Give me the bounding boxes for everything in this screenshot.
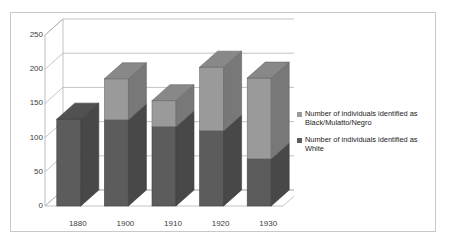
chart-legend: Number of individuals identified as Blac… bbox=[297, 109, 437, 161]
chart-screenshot: 250200150100500 18801900191019201930 Num… bbox=[0, 0, 449, 250]
chart-frame: 250200150100500 18801900191019201930 Num… bbox=[10, 12, 436, 232]
legend-label: Number of individuals identified as Whit… bbox=[305, 135, 437, 154]
bar-group-1910 bbox=[152, 85, 194, 206]
x-tick-label-1900: 1900 bbox=[105, 220, 145, 228]
y-tick-label: 200 bbox=[30, 65, 43, 73]
legend-label: Number of individuals identified as Blac… bbox=[305, 109, 437, 128]
plot-svg bbox=[11, 13, 294, 233]
y-axis-labels: 250200150100500 bbox=[11, 13, 43, 233]
x-tick-label-1920: 1920 bbox=[201, 220, 241, 228]
y-axis-top-depth bbox=[45, 19, 63, 35]
y-tick-label: 100 bbox=[30, 134, 43, 142]
y-tick-label: 250 bbox=[30, 31, 43, 39]
x-tick-label-1930: 1930 bbox=[248, 220, 288, 228]
legend-item[interactable]: Number of individuals identified as Whit… bbox=[297, 135, 437, 154]
bar-group-1900 bbox=[104, 63, 146, 206]
legend-swatch-icon bbox=[297, 112, 302, 117]
x-axis-labels: 18801900191019201930 bbox=[11, 203, 294, 227]
plot-area bbox=[11, 13, 294, 233]
y-tick-label: 50 bbox=[34, 168, 43, 176]
bar-group-1930 bbox=[247, 62, 289, 206]
x-tick-label-1910: 1910 bbox=[153, 220, 193, 228]
bar-group-1880 bbox=[57, 103, 99, 206]
gridline-depth-150 bbox=[45, 87, 63, 103]
legend-item[interactable]: Number of individuals identified as Blac… bbox=[297, 109, 437, 128]
legend-swatch-icon bbox=[297, 138, 302, 143]
x-tick-label-1880: 1880 bbox=[58, 220, 98, 228]
bar-group-1920 bbox=[200, 51, 242, 206]
gridline-depth-200 bbox=[45, 53, 63, 69]
y-tick-label: 150 bbox=[30, 99, 43, 107]
